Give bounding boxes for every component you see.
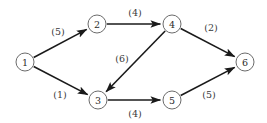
node-label-3: 3: [95, 95, 101, 106]
node-label-2: 2: [94, 19, 100, 30]
graph-node-2[interactable]: 2: [88, 15, 106, 33]
graph-node-5[interactable]: 5: [163, 91, 181, 109]
edge-weight-label-2-4: (4): [128, 7, 141, 18]
edge-weight-label-1-3: (1): [53, 89, 66, 100]
edge-weight-label-1-2: (5): [51, 26, 64, 37]
graph-figure: 123456 (5)(1)(4)(6)(2)(4)(5): [0, 0, 267, 123]
edge-weight-label-3-5: (4): [128, 108, 141, 119]
graph-edge-4-to-6: [181, 29, 235, 57]
graph-node-4[interactable]: 4: [163, 15, 181, 33]
graph-canvas: 123456 (5)(1)(4)(6)(2)(4)(5): [0, 0, 267, 123]
node-label-1: 1: [22, 57, 28, 68]
graph-node-3[interactable]: 3: [89, 91, 107, 109]
node-label-6: 6: [242, 57, 248, 68]
edge-weight-label-4-6: (2): [204, 22, 217, 33]
edge-weight-label-4-3: (6): [115, 53, 128, 64]
edge-weight-label-5-6: (5): [202, 89, 215, 100]
node-label-5: 5: [169, 95, 175, 106]
graph-node-1[interactable]: 1: [16, 53, 34, 71]
graph-node-6[interactable]: 6: [236, 53, 254, 71]
node-label-4: 4: [169, 19, 175, 30]
